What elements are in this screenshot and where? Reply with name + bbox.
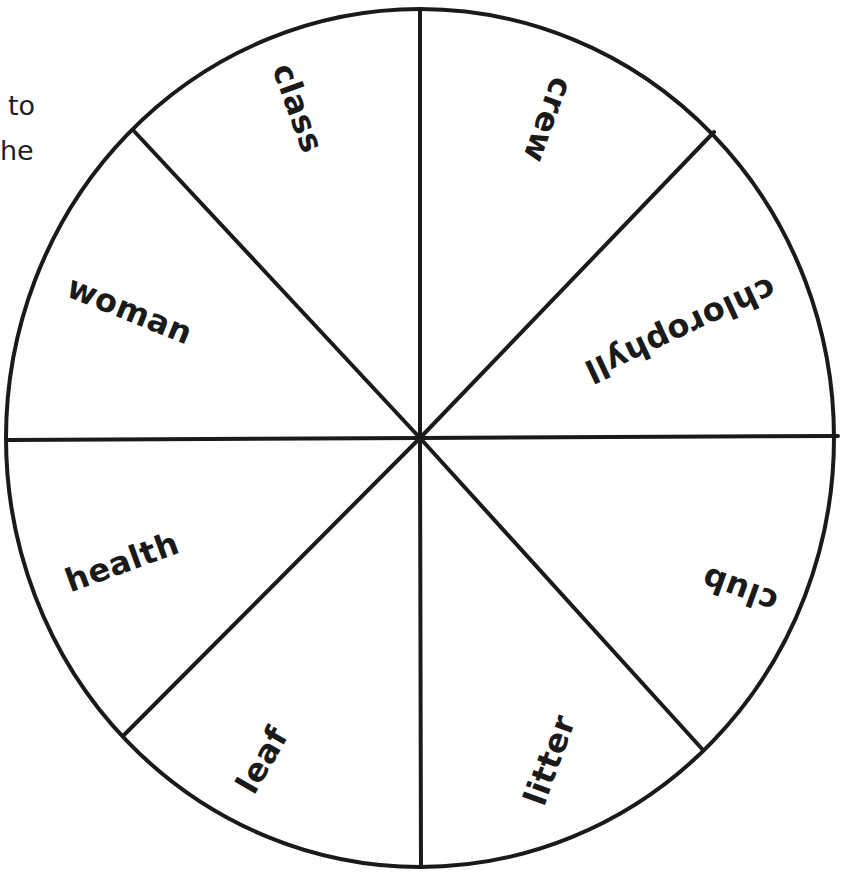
spoke-line — [420, 132, 714, 438]
spoke-line — [124, 438, 420, 735]
spoke-line — [420, 438, 421, 867]
spoke-line — [133, 130, 420, 438]
spoke-line — [420, 436, 838, 438]
spoke-line — [420, 438, 703, 750]
spoke-line — [9, 438, 420, 440]
word-wheel — [0, 0, 842, 877]
